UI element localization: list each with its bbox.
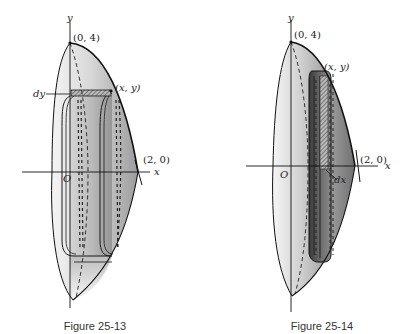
x-axis-label: x (154, 166, 160, 177)
origin-label: O (63, 173, 71, 184)
figure-25-13: y x O (0, 4) (x, y) (2, 0) dy Figure 25-… (22, 12, 170, 332)
y-axis-label: y (287, 12, 294, 23)
apex-label: (0, 4) (294, 29, 321, 40)
caption-figure-25-14: Figure 25-14 (291, 320, 353, 332)
figure-25-14: y x O (0, 4) (x, y) (2, 0) dx Figure 25-… (246, 12, 391, 332)
point-label: (x, y) (115, 82, 141, 93)
intercept-label: (2, 0) (143, 154, 170, 165)
point-label: (x, y) (324, 61, 350, 72)
dx-label: dx (334, 174, 346, 185)
paraboloid-lower-shade (70, 256, 112, 300)
caption-figure-25-13: Figure 25-13 (64, 320, 126, 332)
origin-label: O (280, 169, 288, 180)
dy-label: dy (33, 88, 45, 99)
slab-dy-strip (71, 90, 111, 96)
apex-point (289, 40, 292, 43)
shell-hatched-strip (320, 76, 328, 169)
washer-cylinder (70, 96, 112, 256)
intercept-label: (2, 0) (360, 154, 387, 165)
apex-label: (0, 4) (73, 32, 100, 43)
figures-canvas: y x O (0, 4) (x, y) (2, 0) dy Figure 25-… (0, 0, 410, 334)
apex-point (68, 41, 71, 44)
curve-point (109, 89, 112, 92)
y-axis-label: y (66, 12, 73, 23)
